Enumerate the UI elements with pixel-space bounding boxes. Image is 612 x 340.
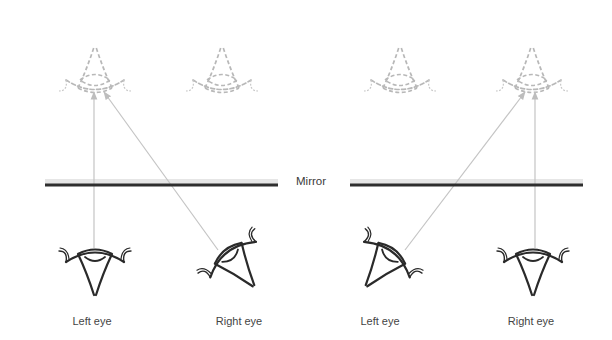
reflection-left-eye-panel1 (59, 47, 131, 93)
label-right-eye-panel2: Right eye (508, 315, 554, 327)
label-left-eye-panel1: Left eye (72, 315, 111, 327)
label-right-eye-panel1: Right eye (216, 315, 262, 327)
eye-left-panel2 (338, 226, 424, 307)
reflection-right-eye-panel1 (186, 47, 258, 93)
eye-left-panel1 (59, 248, 131, 295)
mirror-eye-diagram: Mirror Left eye Right eye Left eye Right… (0, 0, 612, 340)
ray-left-eye-diagonal (405, 92, 525, 250)
diagram-canvas (0, 0, 612, 340)
eye-right-panel1 (196, 226, 282, 307)
label-left-eye-panel2: Left eye (360, 315, 399, 327)
reflection-right-eye-panel2 (496, 47, 568, 93)
mirror-label: Mirror (296, 175, 326, 187)
ray-right-eye-diagonal (104, 92, 218, 250)
mirror-glass-left (45, 179, 278, 184)
mirror-glass-right (350, 179, 583, 184)
reflection-left-eye-panel2 (364, 47, 436, 93)
eye-right-panel2 (497, 248, 569, 295)
